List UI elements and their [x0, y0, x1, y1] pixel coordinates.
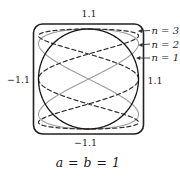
tick-label-top: 1.1: [81, 8, 96, 19]
lissajous-figure: 1.1 −1.1 1.1 −1.1 n = 3 n = 2 n = 1 a = …: [0, 0, 179, 177]
figure-caption: a = b = 1: [56, 155, 121, 170]
callout-label-n2: n = 2: [152, 39, 180, 50]
tick-label-bottom: −1.1: [74, 137, 97, 148]
callout-label-n3: n = 3: [152, 25, 180, 36]
arrowhead-icon: [136, 56, 140, 60]
arrowhead-icon: [138, 29, 142, 33]
tick-label-right: 1.1: [148, 75, 163, 86]
figure-canvas: 1.1 −1.1 1.1 −1.1 n = 3 n = 2 n = 1 a = …: [0, 0, 179, 177]
callout-label-n1: n = 1: [152, 52, 180, 63]
tick-label-left: −1.1: [7, 74, 30, 85]
